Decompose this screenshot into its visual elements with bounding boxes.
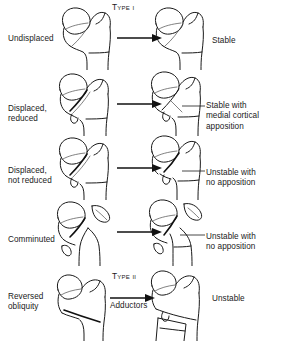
arrow-caption: Adductors — [110, 301, 147, 311]
arrow-right-icon — [117, 34, 162, 42]
proximal-femur-reversed-obliquity-icon — [57, 275, 105, 341]
proximal-femur-comminuted-reduced-icon — [149, 200, 201, 266]
fracture-classification-figure: Undisplaced Type I Stable — [0, 0, 283, 341]
outcome-label: Unstable with no apposition — [206, 232, 256, 253]
proximal-femur-reduced-icon — [151, 72, 200, 136]
pattern-label: Undisplaced — [8, 34, 54, 44]
proximal-femur-unreduced-icon — [151, 136, 200, 200]
proximal-femur-displaced-by-adductors-icon — [151, 271, 199, 341]
classification-row: Reversed obliquity Type II Adductors Uns… — [0, 268, 283, 341]
proximal-femur-comminuted-icon — [57, 202, 109, 266]
outcome-label: Unstable — [212, 294, 245, 304]
proximal-femur-icon — [59, 74, 108, 136]
outcome-label: Stable with medial cortical apposition — [206, 101, 259, 132]
proximal-femur-icon — [62, 8, 110, 70]
outcome-label: Stable — [212, 36, 236, 46]
classification-row: Undisplaced Type I Stable — [0, 0, 283, 70]
arrow-right-icon — [117, 228, 162, 236]
proximal-femur-icon — [59, 138, 108, 200]
outcome-label: Unstable with no apposition — [206, 168, 256, 189]
classification-row: Comminuted Unstable with no apposition — [0, 198, 283, 266]
arrow-right-icon — [117, 100, 162, 108]
classification-row: Displaced, reduced Stable with medial co… — [0, 68, 283, 136]
pattern-label: Reversed obliquity — [8, 292, 43, 313]
pattern-label: Comminuted — [8, 235, 55, 245]
type-caption: Type II — [112, 271, 136, 281]
type-caption: Type I — [112, 2, 134, 12]
classification-row: Displaced, not reduced Unstable with no … — [0, 134, 283, 200]
pattern-label: Displaced, reduced — [8, 104, 47, 125]
pattern-label: Displaced, not reduced — [8, 166, 52, 187]
proximal-femur-reduced-icon — [155, 8, 203, 70]
arrow-right-icon — [117, 164, 162, 172]
